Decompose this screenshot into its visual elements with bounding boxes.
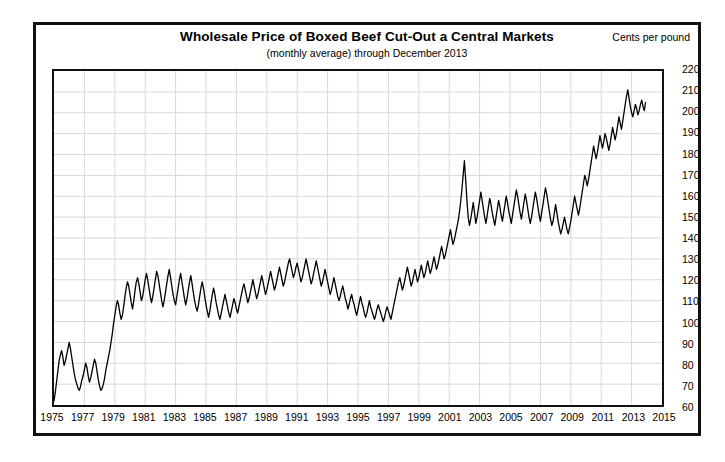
x-tick-label: 2011 xyxy=(592,411,615,423)
y-tick-label: 60 xyxy=(682,401,694,413)
y-tick-label: 110 xyxy=(682,295,699,307)
chart-frame: Wholesale Price of Boxed Beef Cut-Out a … xyxy=(33,22,701,436)
y-tick-label: 170 xyxy=(682,169,700,181)
chart-screenshot: Wholesale Price of Boxed Beef Cut-Out a … xyxy=(0,0,725,462)
x-tick-label: 1989 xyxy=(255,411,278,423)
y-tick-label: 80 xyxy=(682,359,694,371)
units-label: Cents per pound xyxy=(612,31,690,43)
x-tick-label: 1985 xyxy=(193,411,216,423)
x-tick-label: 1975 xyxy=(40,411,63,423)
y-axis-tick-labels: 2202102001901801701601501401301201101009… xyxy=(682,69,722,407)
x-tick-label: 2015 xyxy=(652,411,675,423)
x-tick-label: 1995 xyxy=(346,411,369,423)
x-tick-label: 1977 xyxy=(71,411,94,423)
x-tick-label: 1983 xyxy=(163,411,186,423)
x-tick-label: 2013 xyxy=(622,411,645,423)
x-tick-label: 2003 xyxy=(469,411,492,423)
y-tick-label: 190 xyxy=(682,126,700,138)
data-series-line xyxy=(54,71,662,405)
x-tick-label: 2005 xyxy=(499,411,522,423)
y-tick-label: 160 xyxy=(682,190,700,202)
chart-title: Wholesale Price of Boxed Beef Cut-Out a … xyxy=(36,29,698,44)
x-tick-label: 1991 xyxy=(285,411,308,423)
y-tick-label: 90 xyxy=(682,338,694,350)
chart-subtitle: (monthly average) through December 2013 xyxy=(36,47,698,59)
y-tick-label: 210 xyxy=(682,84,700,96)
chart-header: Wholesale Price of Boxed Beef Cut-Out a … xyxy=(36,25,698,65)
y-tick-label: 120 xyxy=(682,274,700,286)
x-axis-tick-labels: 1975197719791981198319851987198919911993… xyxy=(52,409,664,431)
x-tick-label: 1997 xyxy=(377,411,400,423)
plot-inner xyxy=(54,71,662,405)
x-tick-label: 1979 xyxy=(102,411,125,423)
x-tick-label: 2007 xyxy=(530,411,553,423)
plot-area xyxy=(52,69,664,407)
y-tick-label: 220 xyxy=(682,63,700,75)
y-tick-label: 180 xyxy=(682,148,700,160)
y-tick-label: 70 xyxy=(682,380,694,392)
x-tick-label: 1999 xyxy=(408,411,431,423)
x-tick-label: 1993 xyxy=(316,411,339,423)
x-tick-label: 1987 xyxy=(224,411,247,423)
y-tick-label: 100 xyxy=(682,317,700,329)
x-tick-label: 2009 xyxy=(561,411,584,423)
y-tick-label: 130 xyxy=(682,253,700,265)
y-tick-label: 140 xyxy=(682,232,700,244)
y-tick-label: 200 xyxy=(682,105,700,117)
y-tick-label: 150 xyxy=(682,211,700,223)
x-tick-label: 2001 xyxy=(438,411,461,423)
x-tick-label: 1981 xyxy=(132,411,155,423)
